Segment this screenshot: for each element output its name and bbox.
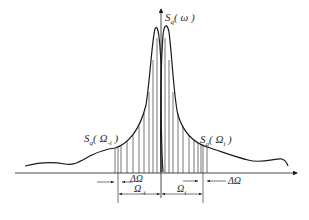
spectrum-curve: [25, 27, 163, 172]
y-axis-label: Sq( ω ): [165, 12, 195, 26]
omega-pos-label: Ωi: [177, 184, 186, 197]
omega-neg-label: Ω-i: [134, 184, 146, 197]
left-ordinate-label: Sq( Ω-i ): [84, 133, 118, 147]
right-ordinate-label: Sq( Ωi ): [200, 134, 232, 148]
delta-omega-right-label: ΔΩ: [228, 176, 241, 186]
spectrum-curve-right: [161, 26, 288, 172]
spectrum-diagram: [0, 0, 309, 220]
